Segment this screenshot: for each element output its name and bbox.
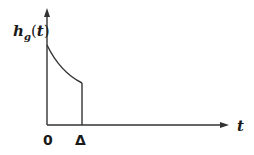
x-axis-label: t bbox=[237, 117, 244, 135]
y-axis-label: hg(t) bbox=[13, 22, 50, 42]
x-tick-zero: 0 bbox=[43, 132, 53, 148]
decay-curve bbox=[47, 45, 82, 83]
x-axis-arrow-icon bbox=[220, 122, 229, 128]
x-tick-delta: Δ bbox=[75, 132, 86, 148]
y-axis-arrow-icon bbox=[44, 8, 50, 17]
